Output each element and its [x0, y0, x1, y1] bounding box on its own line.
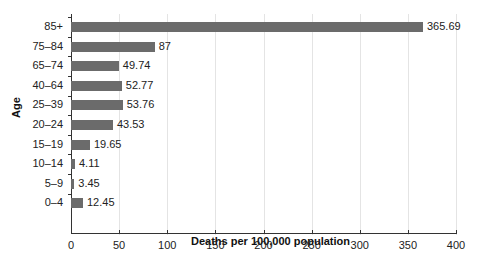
x-tick	[408, 230, 409, 234]
gridline	[408, 14, 409, 235]
category-label: 40–64	[13, 79, 63, 91]
category-label: 65–74	[13, 59, 63, 71]
category-label: 15–19	[13, 138, 63, 150]
x-tick-label: 350	[388, 239, 428, 251]
value-label: 43.53	[117, 118, 145, 130]
x-tick	[119, 230, 120, 234]
bar	[71, 61, 119, 71]
category-label: 20–24	[13, 118, 63, 130]
category-label: 5–9	[13, 177, 63, 189]
bar	[71, 100, 123, 110]
y-tick	[68, 154, 72, 155]
x-tick	[71, 230, 72, 234]
value-label: 49.74	[123, 59, 151, 71]
bar	[71, 120, 113, 130]
value-label: 12.45	[87, 196, 115, 208]
y-tick	[68, 56, 72, 57]
bar	[71, 159, 75, 169]
gridline	[215, 14, 216, 235]
gridline	[456, 14, 457, 235]
value-label: 19.65	[94, 138, 122, 150]
bar	[71, 81, 122, 91]
category-label: 25–39	[13, 98, 63, 110]
y-tick	[68, 115, 72, 116]
x-tick-label: 400	[436, 239, 476, 251]
bar	[71, 179, 74, 189]
y-tick	[68, 76, 72, 77]
y-tick	[68, 174, 72, 175]
gridline	[264, 14, 265, 235]
x-tick-label: 50	[99, 239, 139, 251]
gridline	[312, 14, 313, 235]
bar	[71, 22, 423, 32]
x-tick	[264, 230, 265, 234]
category-label: 75–84	[13, 40, 63, 52]
x-tick-label: 300	[340, 239, 380, 251]
x-tick-label: 150	[195, 239, 235, 251]
category-label: 10–14	[13, 157, 63, 169]
y-tick	[68, 194, 72, 195]
x-tick	[215, 230, 216, 234]
bar	[71, 198, 83, 208]
value-label: 3.45	[78, 177, 99, 189]
bar-chart: Age Deaths per 100,000 population 050100…	[0, 0, 481, 254]
y-tick	[68, 96, 72, 97]
category-label: 85+	[13, 20, 63, 32]
value-label: 52.77	[126, 79, 154, 91]
value-label: 365.69	[427, 20, 461, 32]
x-tick-label: 0	[51, 239, 91, 251]
y-tick	[68, 17, 72, 18]
x-tick	[456, 230, 457, 234]
x-tick-label: 200	[244, 239, 284, 251]
value-label: 53.76	[127, 98, 155, 110]
bar	[71, 140, 90, 150]
category-label: 0–4	[13, 196, 63, 208]
y-tick	[68, 37, 72, 38]
gridline	[360, 14, 361, 235]
x-tick	[167, 230, 168, 234]
value-label: 4.11	[79, 157, 100, 169]
x-tick	[360, 230, 361, 234]
x-tick	[312, 230, 313, 234]
bar	[71, 42, 155, 52]
y-tick	[68, 135, 72, 136]
x-tick-label: 250	[292, 239, 332, 251]
x-tick-label: 100	[147, 239, 187, 251]
value-label: 87	[159, 40, 171, 52]
